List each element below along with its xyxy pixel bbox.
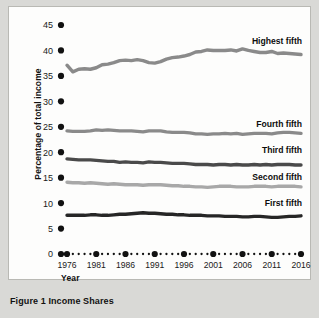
x-axis-tick-label: 2016 <box>291 260 310 270</box>
x-axis-tick-label: 1996 <box>174 260 193 270</box>
x-axis-tick-label: 1981 <box>87 260 106 270</box>
series-line-second-fifth <box>67 182 301 187</box>
series-label-group: Highest fifthFourth fifthThird fifthSeco… <box>252 36 302 207</box>
x-axis-tick-dot <box>298 251 304 257</box>
y-axis-tick-group: 051015202530354045 <box>43 20 64 259</box>
y-axis-tick-label: 5 <box>48 224 53 234</box>
x-axis-minor-dot <box>136 253 138 255</box>
y-axis-tick-label: 35 <box>43 71 53 81</box>
x-axis-minor-dot <box>259 253 261 255</box>
y-axis-tick-label: 40 <box>43 46 53 56</box>
x-axis-minor-dot <box>148 253 150 255</box>
x-axis-tick-label: 2011 <box>263 260 282 270</box>
x-axis-minor-dot <box>276 253 278 255</box>
x-axis-minor-dot <box>230 253 232 255</box>
x-axis-tick-label: 2006 <box>233 260 252 270</box>
x-axis-minor-dot <box>89 253 91 255</box>
series-label-highest-fifth: Highest fifth <box>252 36 302 46</box>
x-axis-minor-dot <box>195 253 197 255</box>
y-axis-tick-label: 30 <box>43 97 53 107</box>
income-shares-line-chart: 051015202530354045 197619811986199119962… <box>9 7 312 281</box>
series-label-first-fifth: First fifth <box>265 198 302 208</box>
x-axis-minor-dot <box>177 253 179 255</box>
x-axis-minor-dot <box>189 253 191 255</box>
x-axis-minor-dot <box>107 253 109 255</box>
y-axis-tick-dot <box>58 251 64 257</box>
x-axis-tick-label: 1976 <box>57 260 76 270</box>
y-axis-tick-label: 45 <box>43 20 53 30</box>
x-axis-tick-label: 1991 <box>145 260 164 270</box>
x-axis-minor-dot <box>224 253 226 255</box>
x-axis-tick-dot <box>210 251 216 257</box>
x-axis-title: Year <box>61 273 80 283</box>
x-axis-minor-dot <box>119 253 121 255</box>
x-axis-minor-dot <box>236 253 238 255</box>
x-axis-minor-dot <box>206 253 208 255</box>
y-axis-tick-dot <box>58 149 64 155</box>
y-axis-tick-label: 0 <box>48 249 53 259</box>
x-axis-minor-dot <box>288 253 290 255</box>
x-axis-tick-dot <box>181 251 187 257</box>
x-axis-minor-dot <box>101 253 103 255</box>
y-axis-tick-dot <box>58 22 64 28</box>
x-axis-tick-dot <box>64 251 70 257</box>
x-axis-tick-dot <box>122 251 128 257</box>
x-axis-minor-dot <box>265 253 267 255</box>
y-axis-tick-dot <box>58 47 64 53</box>
y-axis-tick-dot <box>58 225 64 231</box>
series-line-first-fifth <box>67 213 301 218</box>
x-axis-minor-dot <box>83 253 85 255</box>
x-axis-minor-dot <box>218 253 220 255</box>
x-axis-minor-dot <box>78 253 80 255</box>
y-axis-tick-label: 25 <box>43 122 53 132</box>
x-axis-tick-label: 1986 <box>116 260 135 270</box>
y-axis-title: Percentage of total income <box>33 49 43 199</box>
x-axis-tick-dot <box>239 251 245 257</box>
chart-plot-area: 051015202530354045 197619811986199119962… <box>8 6 311 280</box>
y-axis-tick-dot <box>58 124 64 130</box>
series-label-fourth-fifth: Fourth fifth <box>256 119 302 129</box>
x-axis-minor-dot <box>253 253 255 255</box>
figure-root: 051015202530354045 197619811986199119962… <box>0 0 319 318</box>
y-axis-tick-dot <box>58 98 64 104</box>
x-axis-tick-dot <box>152 251 158 257</box>
y-axis-tick-label: 20 <box>43 148 53 158</box>
x-axis-tick-label: 2001 <box>204 260 223 270</box>
series-line-fourth-fifth <box>67 130 301 135</box>
y-axis-tick-dot <box>58 175 64 181</box>
x-axis-minor-dot <box>247 253 249 255</box>
series-line-third-fifth <box>67 159 301 165</box>
x-axis-minor-dot <box>200 253 202 255</box>
x-axis-minor-dot <box>72 253 74 255</box>
x-axis-minor-dot <box>165 253 167 255</box>
x-axis-tick-dot <box>269 251 275 257</box>
y-axis-tick-label: 10 <box>43 199 53 209</box>
x-axis-tick-dot <box>93 251 99 257</box>
series-line-highest-fifth <box>67 49 301 72</box>
series-line-group <box>67 49 301 217</box>
x-axis-minor-dot <box>294 253 296 255</box>
x-axis-minor-dot <box>130 253 132 255</box>
x-axis-minor-dot <box>159 253 161 255</box>
x-axis-minor-dot <box>113 253 115 255</box>
y-axis-tick-dot <box>58 200 64 206</box>
y-axis-tick-dot <box>58 73 64 79</box>
x-axis-minor-dot <box>282 253 284 255</box>
series-label-third-fifth: Third fifth <box>262 145 302 155</box>
x-axis-minor-dot <box>171 253 173 255</box>
figure-caption: Figure 1 Income Shares <box>10 296 114 306</box>
y-axis-tick-label: 15 <box>43 173 53 183</box>
series-label-second-fifth: Second fifth <box>252 172 302 182</box>
x-axis-minor-dot <box>142 253 144 255</box>
x-axis-tick-group: 197619811986199119962001200620112016 <box>57 251 310 270</box>
